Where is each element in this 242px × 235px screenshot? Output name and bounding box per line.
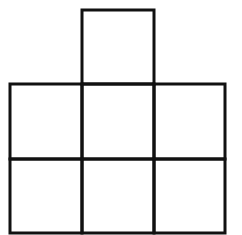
grid-cell-mid-right bbox=[154, 84, 225, 159]
grid-cell-top-center bbox=[82, 10, 154, 84]
square-grid-diagram bbox=[0, 0, 242, 235]
grid-cell-bottom-right bbox=[154, 159, 225, 233]
grid-cell-mid-center bbox=[82, 84, 154, 159]
grid-cell-mid-left bbox=[10, 84, 82, 159]
grid-cell-bottom-center bbox=[82, 159, 154, 233]
grid-cell-bottom-left bbox=[10, 159, 82, 233]
